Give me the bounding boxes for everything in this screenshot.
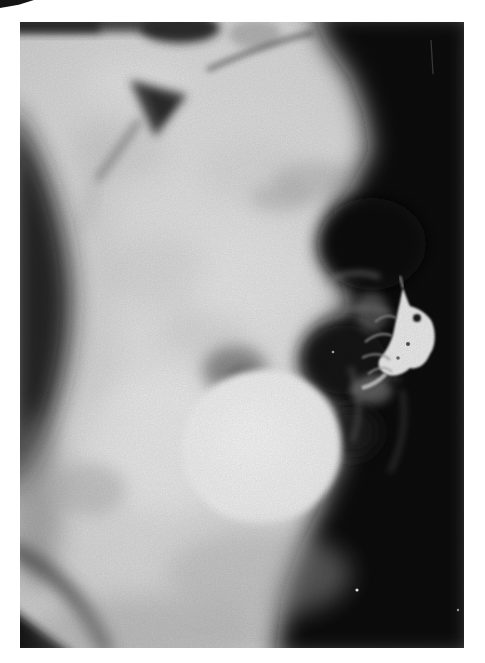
- book-page: [0, 0, 485, 663]
- halftone-grain-overlay: [20, 22, 464, 648]
- page-corner-artifact: [0, 0, 34, 8]
- radiograph-canvas: [20, 22, 464, 648]
- radiograph: [20, 22, 464, 648]
